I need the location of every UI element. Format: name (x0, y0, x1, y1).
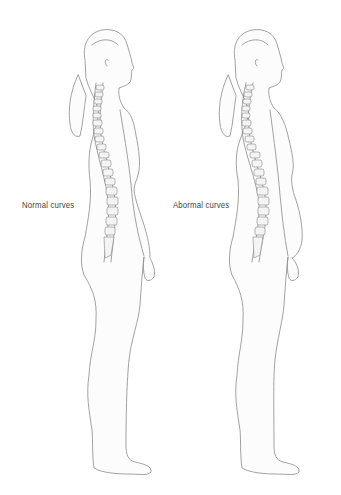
figure-normal (69, 30, 154, 475)
hair-abnormal (219, 75, 236, 137)
spine-comparison-diagram (0, 0, 341, 495)
body-outline-normal (81, 30, 154, 475)
hair-normal (69, 75, 86, 137)
label-normal-curves: Normal curves (22, 199, 74, 210)
figure-abnormal (219, 30, 302, 475)
label-abnormal-curves: Abormal curves (173, 199, 229, 210)
body-outline-abnormal (229, 30, 302, 475)
